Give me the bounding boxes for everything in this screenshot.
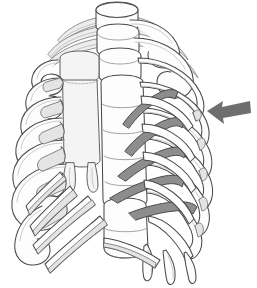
manubrium bbox=[60, 51, 99, 83]
ribcage-diagram bbox=[0, 0, 257, 288]
sternum-body bbox=[63, 80, 100, 167]
ribcage-illustration: Rib cage anterior-oblique view Vertebral… bbox=[0, 0, 257, 288]
